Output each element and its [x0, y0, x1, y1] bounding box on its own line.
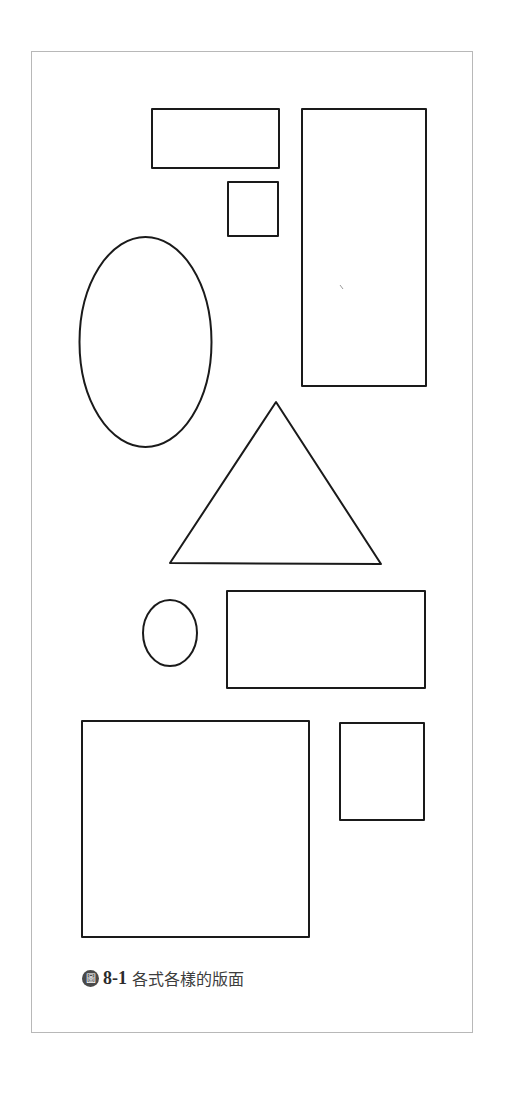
rect-small-bottom-right	[340, 723, 424, 820]
figure-badge-icon: 圖	[82, 970, 99, 987]
rect-top-left	[152, 109, 279, 168]
layout-shapes-diagram	[0, 0, 506, 1097]
figure-caption: 圖 8-1 各式各樣的版面	[82, 966, 244, 990]
rect-tall-right	[302, 109, 426, 386]
figure-title: 各式各樣的版面	[132, 966, 244, 990]
triangle	[170, 402, 381, 564]
square-large-bottom	[82, 721, 309, 937]
ellipse-large	[80, 237, 212, 447]
square-small-top	[228, 182, 278, 236]
stray-mark	[340, 285, 343, 289]
rect-wide-middle	[227, 591, 425, 688]
ellipse-small	[143, 600, 197, 666]
figure-number: 8-1	[103, 968, 127, 989]
